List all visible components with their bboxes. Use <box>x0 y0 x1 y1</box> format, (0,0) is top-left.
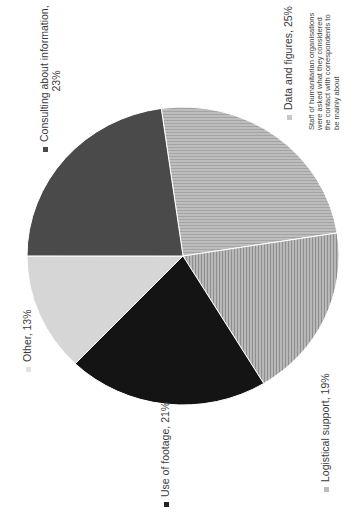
legend-marker-other <box>26 367 31 372</box>
legend-other-text: Other, 13% <box>21 309 33 362</box>
legend-marker-data <box>287 115 292 120</box>
legend-consulting-line2: 23% <box>50 10 62 152</box>
legend-marker-consulting <box>43 147 48 152</box>
legend-footage: Use of footage, 21% <box>159 402 171 507</box>
legend-logistical: Logistical support, 19% <box>319 373 331 492</box>
chart-note: Staff of humanitarian organisations were… <box>308 10 341 130</box>
legend-consulting: Consulting about information, 23% <box>38 10 62 152</box>
legend-footage-text: Use of footage, 21% <box>159 402 171 497</box>
legend-other: Other, 13% <box>21 309 33 372</box>
legend-logistical-text: Logistical support, 19% <box>319 373 331 482</box>
legend-data-text: Data and figures, 25% <box>282 6 294 110</box>
legend-data: Data and figures, 25% <box>282 6 294 120</box>
legend-marker-footage <box>164 502 169 507</box>
legend-marker-logistical <box>324 487 329 492</box>
legend-consulting-line1: Consulting about information, <box>38 5 50 142</box>
pie-slices <box>27 107 339 405</box>
